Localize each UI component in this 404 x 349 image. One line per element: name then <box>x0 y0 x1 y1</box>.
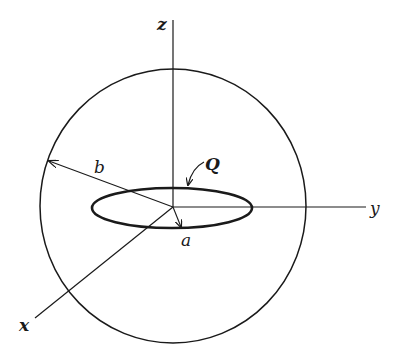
radius-b-arrow <box>49 161 173 207</box>
z-axis-label: z <box>156 14 167 34</box>
charge-q-pointer-arrow <box>188 162 204 185</box>
radius-a-arrow <box>173 207 181 227</box>
charge-q-label: Q <box>205 154 220 174</box>
radius-b-label: b <box>94 157 105 177</box>
diagram-canvas: z y x b a Q <box>0 0 404 349</box>
y-axis-label: y <box>369 198 380 218</box>
x-axis <box>35 207 173 318</box>
x-axis-label: x <box>18 315 30 335</box>
radius-a-label: a <box>181 230 191 250</box>
